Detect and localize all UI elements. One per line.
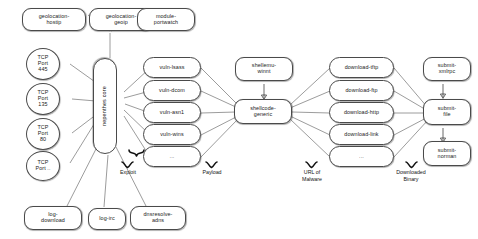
node-download-ftp[interactable]: download-ftp	[329, 80, 394, 101]
node-shellemu-winnt[interactable]: shellemu- winnt	[235, 57, 293, 81]
node-vuln-more[interactable]: ...	[143, 146, 201, 167]
diagram-canvas: geolocation- hostip geolocation- geoip m…	[0, 0, 478, 239]
node-log-irc[interactable]: log-irc	[88, 208, 126, 230]
node-tcp-port-135[interactable]: TCP Port 135	[26, 83, 60, 115]
node-geolocation-hostip[interactable]: geolocation- hostip	[22, 8, 86, 31]
node-tcp-port-other[interactable]: TCP Port ..	[26, 151, 60, 181]
node-download-more[interactable]: ...	[329, 146, 394, 167]
node-module-portwatch[interactable]: module- portwatch	[137, 8, 195, 31]
brace-label-url-of-malware: URL of Malware	[287, 169, 337, 182]
node-download-http[interactable]: download-http	[329, 102, 394, 123]
node-tcp-port-445[interactable]: TCP Port 445	[26, 48, 60, 80]
node-submit-norman[interactable]: submit- norman	[423, 141, 471, 166]
node-nepenthes-core[interactable]: nepenthes core	[93, 58, 117, 154]
node-download-tftp[interactable]: download-tftp	[329, 57, 394, 78]
node-dnsresolve-adns[interactable]: dnsresolve- adns	[130, 206, 186, 230]
brace-label-exploit: Exploit	[108, 169, 148, 176]
node-download-link[interactable]: download-link	[329, 124, 394, 145]
node-vuln-wins[interactable]: vuln-wins	[143, 124, 201, 145]
node-log-download[interactable]: log- download	[24, 206, 82, 230]
node-vuln-dcom[interactable]: vuln-dcom	[143, 80, 201, 101]
node-shellcode-generic[interactable]: shellcode- generic	[234, 99, 292, 124]
node-submit-file[interactable]: submit- file	[423, 99, 471, 125]
brace-label-downloaded-binary: Downloaded Binary	[382, 169, 440, 182]
node-submit-xmlrpc[interactable]: submit- xmlrpc	[423, 57, 471, 81]
node-vuln-lsass[interactable]: vuln-lsass	[143, 57, 201, 78]
node-tcp-port-80[interactable]: TCP Port 80	[26, 118, 60, 150]
node-vuln-asn1[interactable]: vuln-asn1	[143, 102, 201, 123]
brace-label-payload: Payload	[192, 169, 232, 176]
